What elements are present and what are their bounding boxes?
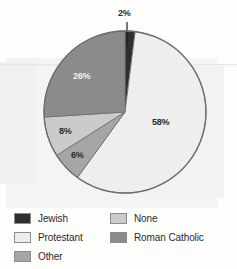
legend-label-other: Other — [38, 251, 63, 262]
legend-item-other[interactable]: Other — [14, 247, 83, 265]
legend-column-right: None Roman Catholic — [110, 209, 204, 247]
legend-swatch-jewish — [14, 213, 31, 224]
pie-slice-group — [44, 31, 206, 193]
legend-label-protestant: Protestant — [38, 232, 83, 243]
slice-label-other: 6% — [71, 150, 84, 160]
slice-label-jewish: 2% — [118, 8, 131, 18]
legend-swatch-roman-catholic — [110, 232, 127, 243]
legend-label-roman-catholic: Roman Catholic — [134, 232, 204, 243]
legend-swatch-protestant — [14, 232, 31, 243]
legend-item-none[interactable]: None — [110, 209, 204, 227]
slice-label-roman-catholic: 26% — [73, 71, 90, 81]
legend-item-roman-catholic[interactable]: Roman Catholic — [110, 228, 204, 246]
slice-label-protestant: 58% — [152, 117, 169, 127]
pie-chart: 2% 58% 6% 8% 26% — [0, 0, 237, 205]
legend-column-left: Jewish Protestant Other — [14, 209, 83, 266]
legend-item-jewish[interactable]: Jewish — [14, 209, 83, 227]
pie-chart-svg — [0, 0, 237, 205]
legend-swatch-none — [110, 213, 127, 224]
legend-label-jewish: Jewish — [38, 213, 68, 224]
legend-item-protestant[interactable]: Protestant — [14, 228, 83, 246]
slice-label-none: 8% — [59, 126, 72, 136]
chart-legend: Jewish Protestant Other None Roman Catho… — [14, 209, 226, 267]
legend-swatch-other — [14, 251, 31, 262]
legend-label-none: None — [134, 213, 158, 224]
